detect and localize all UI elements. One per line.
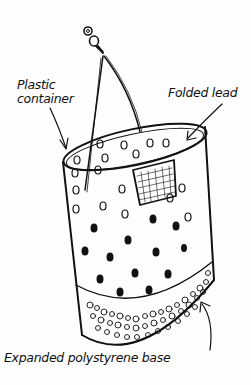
holes-dark [82, 215, 188, 297]
folded-lid [133, 160, 176, 205]
swivel-hook-icon [84, 27, 103, 53]
label-folded-lid: Folded lead [168, 86, 237, 100]
diagram-canvas: Plastic container Folded lead Expanded p… [0, 0, 251, 385]
label-plastic-container-line2: container [17, 92, 74, 106]
container-illustration [0, 0, 251, 385]
leader-arrows [50, 104, 222, 350]
label-polystyrene-base: Expanded polystyrene base [4, 351, 170, 365]
label-plastic-container: Plastic container [17, 78, 74, 106]
label-plastic-container-line1: Plastic [17, 78, 74, 92]
container-body [60, 114, 214, 345]
polystyrene-base [87, 271, 211, 340]
